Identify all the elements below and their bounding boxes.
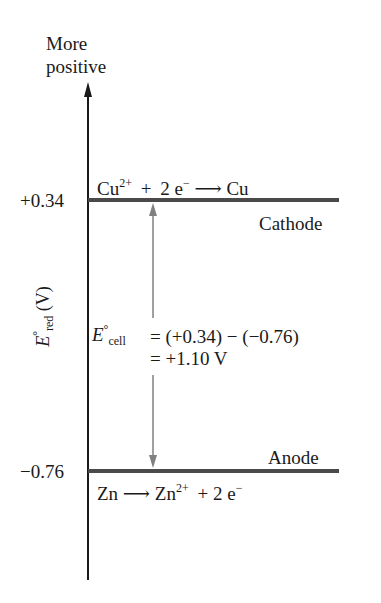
ylabel-degree: ° [30,331,44,336]
cathode-reactant: Cu [97,178,119,199]
anode-product: Zn [155,483,176,504]
axis-top-label-line1: More [46,34,87,53]
arrowhead-down-icon [149,455,157,468]
ecell-symbol: E [92,324,104,345]
cathode-reaction: Cu2+ + 2 e− ⟶ Cu [97,179,249,198]
anode-arrow-icon: ⟶ [123,483,150,504]
axis-arrowhead-icon [84,82,92,97]
tick-label-anode: −0.76 [20,462,64,481]
ylabel-unit: (V) [33,286,53,316]
anode-reaction: Zn ⟶ Zn2+ + 2 e− [97,484,242,503]
cathode-electrons: 2 e [160,178,183,199]
diagram-graphics [0,0,381,603]
anode-electron-charge: − [236,481,243,495]
cell-equation-lhs: E°cell [92,325,126,344]
y-axis-label: E°red (V) [33,278,54,356]
anode-electrons: 2 e [213,483,236,504]
anode-product-charge: 2+ [176,481,189,495]
ecell-subscript: cell [108,334,125,348]
axis-top-label-line2: positive [46,57,106,76]
cell-equation-line2: = +1.10 V [150,349,228,368]
cell-equation-line1: = (+0.34) − (−0.76) [150,327,299,346]
cathode-plus: + [141,178,152,199]
anode-plus: + [198,483,209,504]
anode-label: Anode [268,448,319,467]
arrowhead-up-icon [149,203,157,216]
cathode-product: Cu [226,178,248,199]
ylabel-subscript: red [42,316,56,331]
cathode-reactant-charge: 2+ [119,176,132,190]
cathode-label: Cathode [259,214,322,233]
cathode-arrow-icon: ⟶ [194,178,221,199]
tick-label-cathode: +0.34 [20,191,64,210]
anode-reactant: Zn [97,483,118,504]
cathode-electron-charge: − [183,176,190,190]
ylabel-symbol: E [33,336,53,347]
